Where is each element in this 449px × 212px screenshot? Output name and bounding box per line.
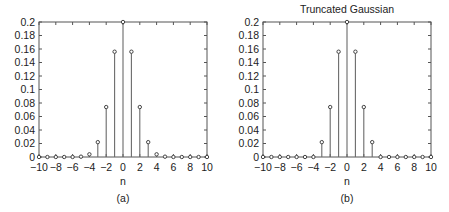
y-tick-label: 0.08 bbox=[15, 97, 36, 109]
stem-marker bbox=[197, 155, 200, 158]
y-tick-label: 0.14 bbox=[239, 56, 260, 68]
stem-marker bbox=[261, 155, 264, 158]
chart-title: Truncated Gaussian bbox=[300, 3, 394, 15]
x-tick-label: 8 bbox=[411, 161, 417, 173]
stem-marker bbox=[287, 155, 290, 158]
x-tick-label: −10 bbox=[254, 161, 272, 173]
x-tick-label: −6 bbox=[291, 161, 303, 173]
y-tick-label: 0.1 bbox=[20, 83, 35, 95]
y-tick-label: 0.1 bbox=[244, 83, 259, 95]
y-tick-label: 0.18 bbox=[239, 29, 260, 41]
x-tick-label: −4 bbox=[83, 161, 95, 173]
y-tick-label: 0.06 bbox=[15, 110, 36, 122]
x-tick-label: 2 bbox=[361, 161, 367, 173]
stem-marker bbox=[205, 155, 208, 158]
y-tick-label: 0.2 bbox=[20, 16, 35, 28]
x-tick-label: 10 bbox=[425, 161, 437, 173]
stem-marker bbox=[413, 155, 416, 158]
x-tick-label: 2 bbox=[137, 161, 143, 173]
stem-marker bbox=[155, 153, 158, 156]
y-tick-label: 0.14 bbox=[15, 56, 36, 68]
stem-marker bbox=[130, 50, 133, 53]
stem-marker bbox=[312, 155, 315, 158]
stem-marker bbox=[46, 155, 49, 158]
panel-a: 00.020.040.060.080.10.120.140.160.180.2−… bbox=[15, 16, 213, 205]
stem-marker bbox=[163, 155, 166, 158]
x-tick-label: 4 bbox=[154, 161, 160, 173]
y-tick-label: 0.02 bbox=[239, 137, 260, 149]
panel-label: (a) bbox=[117, 192, 130, 204]
x-tick-label: −2 bbox=[324, 161, 336, 173]
x-axis-label: n bbox=[120, 175, 126, 187]
stem-marker bbox=[189, 155, 192, 158]
stem-marker bbox=[337, 50, 340, 53]
stem-marker bbox=[379, 155, 382, 158]
x-tick-label: −2 bbox=[100, 161, 112, 173]
y-tick-label: 0.16 bbox=[239, 43, 260, 55]
stem-marker bbox=[172, 155, 175, 158]
x-tick-label: 0 bbox=[120, 161, 126, 173]
stem-marker bbox=[354, 50, 357, 53]
y-tick-label: 0.12 bbox=[239, 70, 260, 82]
stem-marker bbox=[62, 155, 65, 158]
y-tick-label: 0.08 bbox=[239, 97, 260, 109]
figure-canvas: 00.020.040.060.080.10.120.140.160.180.2−… bbox=[0, 0, 449, 212]
x-tick-label: 4 bbox=[378, 161, 384, 173]
stem-marker bbox=[421, 155, 424, 158]
stem-marker bbox=[79, 155, 82, 158]
stem-marker bbox=[113, 50, 116, 53]
stem-marker bbox=[121, 20, 124, 23]
stem-marker bbox=[320, 140, 323, 143]
stem-marker bbox=[295, 155, 298, 158]
x-tick-label: −8 bbox=[274, 161, 286, 173]
x-tick-label: 0 bbox=[344, 161, 350, 173]
x-tick-label: −6 bbox=[67, 161, 79, 173]
x-tick-label: 8 bbox=[187, 161, 193, 173]
y-tick-label: 0.2 bbox=[244, 16, 259, 28]
x-tick-label: 10 bbox=[201, 161, 213, 173]
y-tick-label: 0.04 bbox=[15, 124, 36, 136]
stem-marker bbox=[54, 155, 57, 158]
y-tick-label: 0.06 bbox=[239, 110, 260, 122]
stem-marker bbox=[429, 155, 432, 158]
panel-label: (b) bbox=[341, 192, 354, 204]
y-tick-label: 0.02 bbox=[15, 137, 36, 149]
stem-marker bbox=[71, 155, 74, 158]
y-tick-label: 0.04 bbox=[239, 124, 260, 136]
stem-marker bbox=[371, 140, 374, 143]
stem-marker bbox=[180, 155, 183, 158]
y-tick-label: 0.16 bbox=[15, 43, 36, 55]
stem-marker bbox=[396, 155, 399, 158]
y-tick-label: 0.12 bbox=[15, 70, 36, 82]
x-tick-label: −4 bbox=[307, 161, 319, 173]
stem-marker bbox=[278, 155, 281, 158]
stem-marker bbox=[303, 155, 306, 158]
x-tick-label: −10 bbox=[30, 161, 48, 173]
stem-marker bbox=[345, 20, 348, 23]
stem-marker bbox=[387, 155, 390, 158]
panel-b: 00.020.040.060.080.10.120.140.160.180.2−… bbox=[239, 3, 437, 204]
stem-marker bbox=[37, 155, 40, 158]
x-axis-label: n bbox=[344, 175, 350, 187]
x-tick-label: −8 bbox=[50, 161, 62, 173]
stem-marker bbox=[96, 140, 99, 143]
stem-marker bbox=[147, 140, 150, 143]
stem-marker bbox=[88, 153, 91, 156]
stem-marker bbox=[404, 155, 407, 158]
stem-marker bbox=[362, 105, 365, 108]
figure: 00.020.040.060.080.10.120.140.160.180.2−… bbox=[0, 0, 449, 212]
stem-marker bbox=[138, 105, 141, 108]
y-tick-label: 0.18 bbox=[15, 29, 36, 41]
stem-marker bbox=[329, 105, 332, 108]
stem-marker bbox=[105, 105, 108, 108]
x-tick-label: 6 bbox=[394, 161, 400, 173]
x-tick-label: 6 bbox=[170, 161, 176, 173]
stem-marker bbox=[270, 155, 273, 158]
